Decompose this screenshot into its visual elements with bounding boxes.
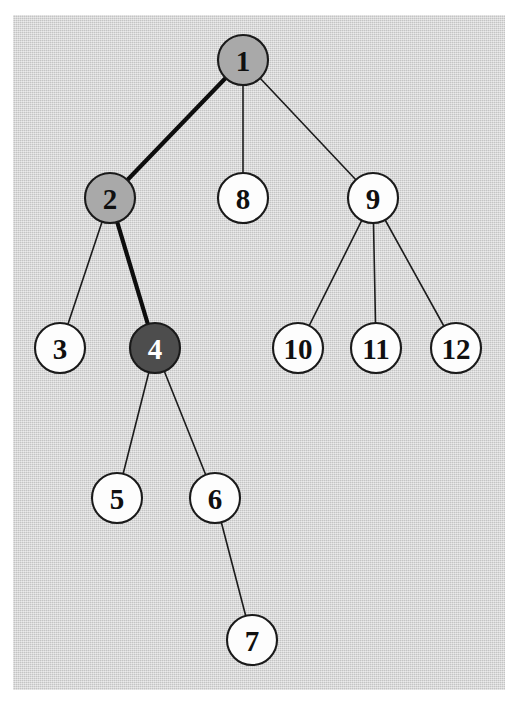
node-label-11: 11 [362,333,389,365]
tree-edge-1-2 [127,77,227,180]
tree-node-6[interactable]: 6 [190,473,240,523]
tree-edge-2-4 [117,221,148,325]
tree-node-10[interactable]: 10 [273,323,323,373]
node-label-8: 8 [236,183,251,215]
node-label-6: 6 [208,483,223,515]
tree-edge-9-12 [385,219,445,327]
tree-node-4[interactable]: 4 [130,323,180,373]
tree-edge-1-9 [259,77,356,180]
node-label-10: 10 [284,333,313,365]
node-label-12: 12 [442,333,471,365]
tree-edge-4-5 [123,371,149,474]
tree-node-7[interactable]: 7 [227,615,277,665]
node-label-2: 2 [103,183,118,215]
node-label-4: 4 [148,333,163,365]
node-label-3: 3 [53,333,68,365]
node-label-7: 7 [245,625,260,657]
tree-node-11[interactable]: 11 [351,323,401,373]
tree-edge-4-6 [164,370,206,475]
tree-edge-9-10 [309,219,363,326]
tree-node-12[interactable]: 12 [431,323,481,373]
tree-edge-6-7 [221,521,246,617]
tree-node-3[interactable]: 3 [35,323,85,373]
node-label-9: 9 [366,183,381,215]
tree-node-9[interactable]: 9 [348,173,398,223]
node-label-1: 1 [236,45,251,77]
tree-edge-9-11 [373,222,375,324]
tree-edge-2-3 [68,221,103,325]
tree-node-8[interactable]: 8 [218,173,268,223]
node-label-5: 5 [110,483,125,515]
tree-diagram: 128934101112567 [0,0,520,706]
tree-node-1[interactable]: 1 [218,35,268,85]
node-layer: 128934101112567 [35,35,481,665]
tree-node-2[interactable]: 2 [85,173,135,223]
tree-node-5[interactable]: 5 [92,473,142,523]
figure-page: 128934101112567 [0,0,520,706]
